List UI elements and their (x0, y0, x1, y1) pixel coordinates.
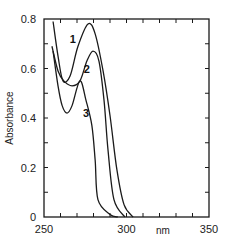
x-tick-label: 250 (35, 223, 53, 235)
y-axis-title: Absorbance (4, 91, 15, 145)
curve-3 (53, 51, 118, 217)
x-axis-ticks (61, 19, 193, 217)
curve-label-1: 1 (70, 33, 76, 45)
y-tick-label: 0.6 (21, 63, 36, 75)
y-axis-tick-labels: 00.20.40.60.8 (21, 13, 36, 223)
y-axis-ticks (44, 44, 209, 193)
curve-number-labels: 123 (70, 33, 90, 119)
y-tick-label: 0.2 (21, 162, 36, 174)
curve-label-3: 3 (83, 107, 89, 119)
y-tick-label: 0.8 (21, 13, 36, 25)
x-axis-title: nm (156, 225, 170, 236)
x-axis-tick-labels: 250300350 (35, 223, 218, 235)
absorbance-chart: 250300350 00.20.40.60.8 nm Absorbance 12… (0, 0, 225, 242)
x-tick-label: 350 (200, 223, 218, 235)
y-tick-label: 0.4 (21, 112, 36, 124)
plot-frame (44, 19, 209, 217)
curve-label-2: 2 (84, 63, 90, 75)
x-tick-label: 300 (117, 223, 135, 235)
y-tick-label: 0 (30, 211, 36, 223)
spectrum-curves (52, 21, 133, 217)
